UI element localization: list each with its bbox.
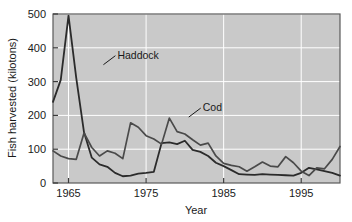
line-chart: 0100200300400500 1965197519851995 Haddoc… xyxy=(0,0,352,222)
y-tick-label-100: 100 xyxy=(28,143,46,155)
x-tick-label-1975: 1975 xyxy=(134,187,158,199)
y-axis-title: Fish harvested (kilotons) xyxy=(6,38,18,158)
y-tick-label-0: 0 xyxy=(40,177,46,189)
y-tick-label-200: 200 xyxy=(28,109,46,121)
x-axis-tick-labels: 1965197519851995 xyxy=(56,187,313,199)
series-label-haddock: Haddock xyxy=(117,49,159,61)
x-tick-label-1985: 1985 xyxy=(211,187,235,199)
x-tick-label-1995: 1995 xyxy=(289,187,313,199)
x-tick-label-1965: 1965 xyxy=(56,187,80,199)
plot-background xyxy=(53,14,340,183)
chart-figure: 0100200300400500 1965197519851995 Haddoc… xyxy=(0,0,352,222)
series-label-cod: Cod xyxy=(203,101,222,113)
y-axis-tick-labels: 0100200300400500 xyxy=(28,8,46,189)
y-tick-label-400: 400 xyxy=(28,42,46,54)
y-tick-label-300: 300 xyxy=(28,76,46,88)
x-axis-title: Year xyxy=(185,204,208,216)
y-tick-label-500: 500 xyxy=(28,8,46,20)
